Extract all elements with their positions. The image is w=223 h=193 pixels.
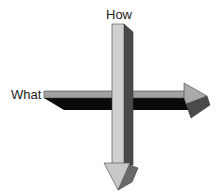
how-label: How <box>106 8 132 21</box>
what-label: What <box>11 88 41 101</box>
